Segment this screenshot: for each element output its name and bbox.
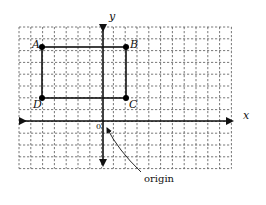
vertex-b-point (123, 44, 129, 50)
vertex-c-label: C (129, 98, 138, 111)
vertex-a-label: A (31, 38, 40, 51)
vertex-b-label: B (129, 38, 138, 51)
x-axis-label: x (243, 109, 250, 122)
origin-tick-label: 0 (96, 122, 101, 131)
origin-annotation-label: origin (144, 173, 175, 184)
origin-pointer-arrow (107, 128, 141, 172)
rectangle-abcd (39, 44, 129, 101)
y-axis-label: y (108, 10, 116, 23)
vertex-d-label: D (32, 98, 42, 111)
coordinate-plane-diagram: A B C D y x 0 origin (0, 0, 266, 205)
